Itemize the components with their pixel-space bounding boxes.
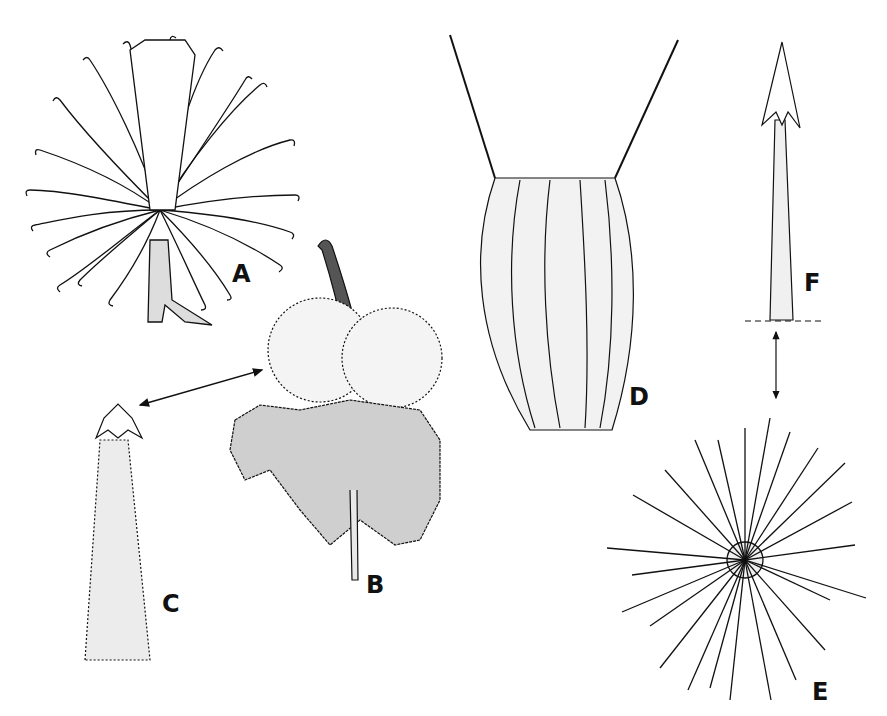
illustration-drawing [0,0,887,716]
label-a: A [232,262,251,286]
panel-d-achene [450,35,678,430]
panel-f-spine [745,42,825,398]
label-f: F [804,271,820,295]
panel-a-flower-head [26,36,299,325]
label-d: D [629,385,649,409]
botanical-illustration: A B C D E F [0,0,887,716]
panel-b-burr-head [230,240,442,580]
label-c: C [162,592,180,616]
panel-c-bract-tip [85,404,150,660]
panel-e-spiny-fruit [607,418,866,700]
label-b: B [366,573,384,597]
label-e: E [812,680,828,704]
